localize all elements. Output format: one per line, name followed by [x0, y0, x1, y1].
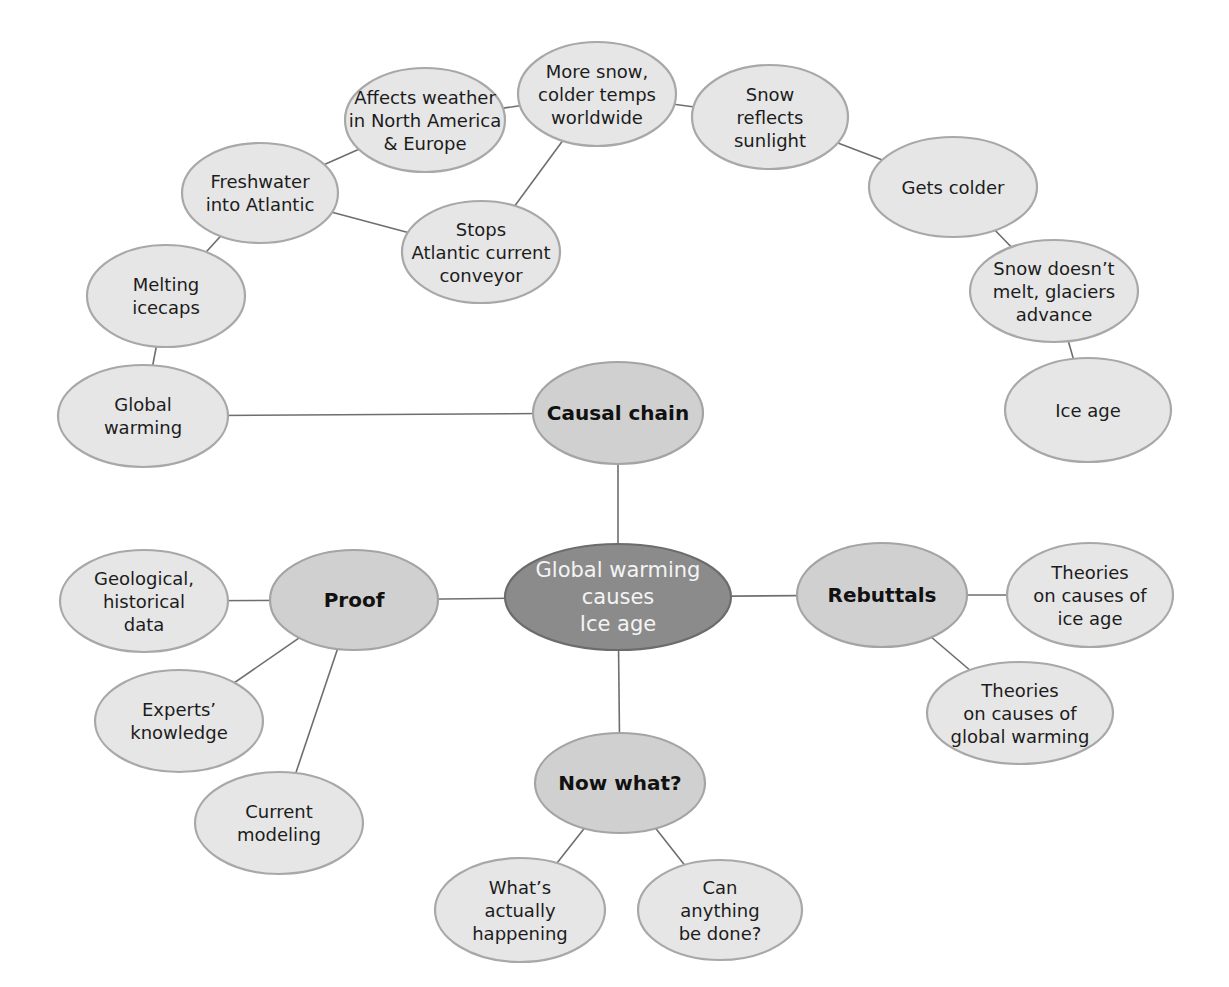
- node-label-line: Current: [245, 801, 313, 822]
- node-label-line: in North America: [349, 110, 501, 131]
- node-more-snow: More snow,colder tempsworldwide: [518, 42, 676, 146]
- node-snow-reflects: Snowreflectssunlight: [692, 65, 848, 169]
- node-label-line: icecaps: [132, 297, 200, 318]
- node-label-line: reflects: [737, 107, 804, 128]
- concept-nodes: Global warmingcausesIce ageCausal chainP…: [58, 42, 1173, 962]
- node-label-line: sunlight: [734, 130, 806, 151]
- node-label-line: worldwide: [551, 107, 643, 128]
- node-melting-icecaps: Meltingicecaps: [87, 245, 245, 347]
- node-label-line: & Europe: [383, 133, 466, 154]
- node-proof: Proof: [270, 550, 438, 650]
- node-label-line: Theories: [980, 680, 1058, 701]
- node-label-line: causes: [582, 585, 655, 609]
- node-label-line: Rebuttals: [828, 583, 937, 607]
- node-label-line: More snow,: [546, 61, 649, 82]
- node-ellipse: [58, 365, 228, 467]
- node-label-line: Snow: [746, 84, 795, 105]
- node-label-line: knowledge: [130, 722, 228, 743]
- node-label-line: Gets colder: [902, 177, 1006, 198]
- node-experts: Experts’knowledge: [95, 670, 263, 772]
- node-current-modeling: Currentmodeling: [195, 772, 363, 874]
- node-label-line: Geological,: [94, 568, 194, 589]
- node-label-line: on causes of: [1033, 585, 1147, 606]
- node-label-line: actually: [484, 900, 555, 921]
- node-label-line: advance: [1016, 304, 1093, 325]
- node-label-line: Proof: [324, 588, 385, 612]
- node-label-line: ice age: [1057, 608, 1122, 629]
- node-label-line: Melting: [133, 274, 200, 295]
- node-snow-doesnt-melt: Snow doesn’tmelt, glaciersadvance: [970, 240, 1138, 342]
- node-ellipse: [195, 772, 363, 874]
- node-label-line: colder temps: [538, 84, 656, 105]
- node-label-line: into Atlantic: [206, 194, 315, 215]
- node-label-line: Ice age: [1055, 400, 1121, 421]
- node-label-line: Affects weather: [354, 87, 496, 108]
- node-theories-global-warming: Theorieson causes ofglobal warming: [927, 662, 1113, 764]
- node-ellipse: [182, 143, 338, 243]
- node-gets-colder: Gets colder: [869, 137, 1037, 237]
- node-geological: Geological,historicaldata: [60, 550, 228, 652]
- node-label-line: Stops: [456, 219, 506, 240]
- node-label-line: data: [124, 614, 165, 635]
- node-global-warming: Globalwarming: [58, 365, 228, 467]
- node-label-line: Experts’: [142, 699, 216, 720]
- node-label-line: Global warming: [536, 558, 701, 582]
- node-ice-age: Ice age: [1005, 358, 1171, 462]
- node-label-line: Theories: [1050, 562, 1128, 583]
- node-label-line: modeling: [237, 824, 321, 845]
- node-affects-weather: Affects weatherin North America& Europe: [345, 68, 505, 172]
- node-label-line: be done?: [679, 923, 762, 944]
- node-label-line: on causes of: [963, 703, 1077, 724]
- node-label-line: Now what?: [558, 771, 681, 795]
- node-label-line: Ice age: [580, 612, 656, 636]
- node-label-line: anything: [680, 900, 759, 921]
- node-ellipse: [87, 245, 245, 347]
- node-center: Global warmingcausesIce age: [505, 544, 731, 650]
- node-ellipse: [95, 670, 263, 772]
- node-label-line: Global: [114, 394, 171, 415]
- node-stops-current: StopsAtlantic currentconveyor: [402, 201, 560, 303]
- concept-map: Global warmingcausesIce ageCausal chainP…: [0, 0, 1229, 987]
- node-label-line: Causal chain: [547, 401, 689, 425]
- node-theories-ice-age: Theorieson causes ofice age: [1007, 543, 1173, 647]
- node-label-line: happening: [472, 923, 568, 944]
- node-label-line: global warming: [951, 726, 1090, 747]
- node-label-line: Can: [702, 877, 737, 898]
- node-label-line: Freshwater: [210, 171, 310, 192]
- node-label-line: conveyor: [439, 265, 523, 286]
- node-label-line: Snow doesn’t: [993, 258, 1114, 279]
- node-label-line: historical: [103, 591, 185, 612]
- node-freshwater: Freshwaterinto Atlantic: [182, 143, 338, 243]
- node-whats-happening: What’sactuallyhappening: [435, 858, 605, 962]
- node-rebuttals: Rebuttals: [797, 543, 967, 647]
- node-label-line: What’s: [489, 877, 551, 898]
- node-now-what: Now what?: [535, 733, 705, 833]
- node-can-anything: Cananythingbe done?: [638, 860, 802, 960]
- node-label-line: warming: [104, 417, 182, 438]
- node-label-line: melt, glaciers: [993, 281, 1115, 302]
- node-label-line: Atlantic current: [411, 242, 550, 263]
- node-causal-chain: Causal chain: [533, 362, 703, 464]
